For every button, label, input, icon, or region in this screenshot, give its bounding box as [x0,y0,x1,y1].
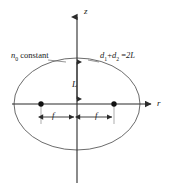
eta-subscript: 0 [15,56,18,62]
diagram-canvas [0,0,171,189]
eta-constant-label: n0 constant [11,51,49,62]
distance-sum-label: d1+d2 =2L [100,51,135,62]
ellipse-coordinate-diagram: n0 constant d1+d2 =2L z r L f f [0,0,171,189]
distance-sum-result: 2L [126,50,135,60]
eta-constant-word: constant [20,50,48,60]
focus-point-left [38,101,43,106]
z-axis-label: z [84,7,88,16]
r-axis-label: r [157,99,161,108]
focus-point-right [111,101,116,106]
dimension-label-f-right: f [95,111,98,120]
d2-subscript: 2 [116,56,119,62]
dimension-label-f-left: f [52,111,55,120]
dimension-label-L: L [72,80,77,89]
